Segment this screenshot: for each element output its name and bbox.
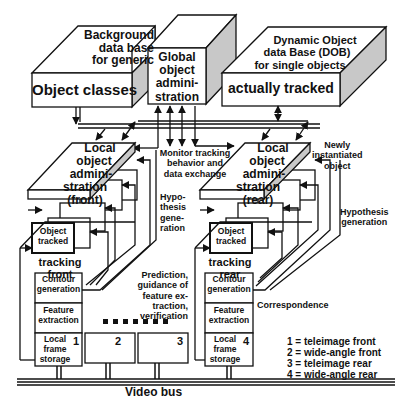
background-db-top-label: Background data base for generic <box>72 29 154 67</box>
camera-number-4: 4 <box>243 336 249 348</box>
label-line: object <box>55 155 127 168</box>
label-line: Background <box>72 29 154 42</box>
hypothesis-rear-label: Hypothesis generation <box>340 207 389 228</box>
label-line: (front) <box>43 194 127 207</box>
frame-box-2 <box>85 333 135 363</box>
legend-item: 3 = teleimage rear <box>287 358 381 369</box>
label-line: storage <box>205 355 245 365</box>
local-admin-front-label: Local object admini- stration (front) <box>55 142 127 207</box>
label-line: Hypo- <box>160 192 186 202</box>
label-line: admini- <box>148 77 206 90</box>
newly-instantiated-label: Newly instantiated object <box>312 140 363 171</box>
label-line: tracked <box>32 237 74 247</box>
label-line: Dynamic Object <box>240 34 360 46</box>
label-line: Hypothesis <box>340 207 389 217</box>
camera-number-3: 3 <box>177 336 183 348</box>
label-line: gene- <box>160 213 186 223</box>
object-tracked-rear: Object tracked <box>210 227 252 247</box>
prediction-label: Prediction, guidance of feature ex- trac… <box>130 270 188 322</box>
legend: 1 = teleimage front 2 = wide-angle front… <box>287 336 381 380</box>
label-line: admini- <box>228 168 300 181</box>
feature-front: Feature extraction <box>35 306 82 326</box>
label-line: stration <box>43 181 127 194</box>
label-line: verification <box>130 311 188 321</box>
frame-storage-front: Local frame storage <box>35 335 75 364</box>
label-line: ration <box>160 223 186 233</box>
label-line: generation <box>340 217 389 227</box>
contour-rear: Contour generation <box>205 275 253 295</box>
label-line: Local <box>55 142 127 155</box>
label-line: guidance of <box>130 280 188 290</box>
label-line: object <box>312 161 363 171</box>
actually-tracked-label: actually tracked <box>222 81 340 96</box>
label-line: generation <box>35 285 82 295</box>
global-admin-label: Global object admini- stration <box>148 51 206 104</box>
legend-item: 1 = teleimage front <box>287 336 381 347</box>
label-line: feature ex- <box>130 291 188 301</box>
camera-number-2: 2 <box>115 336 121 348</box>
object-classes-label: Object classes <box>32 82 132 98</box>
label-line: extraction <box>35 316 82 326</box>
object-tracked-front: Object tracked <box>32 227 74 247</box>
label-line: storage <box>35 355 75 365</box>
label-line: extraction <box>205 316 253 326</box>
feature-rear: Feature extraction <box>205 306 253 326</box>
contour-front: Contour generation <box>35 275 82 295</box>
local-admin-rear-label: Local object admini- stration (rear) <box>228 142 300 207</box>
video-bus-label: Video bus <box>125 386 182 399</box>
label-line: for generic <box>72 54 154 67</box>
label-line: stration <box>148 91 206 104</box>
label-line: (rear) <box>216 194 300 207</box>
legend-item: 2 = wide-angle front <box>287 347 381 358</box>
correspondence-label: Correspondence <box>257 300 329 310</box>
label-line: admini- <box>55 168 127 181</box>
label-line: data Base (DOB) <box>240 46 360 58</box>
frame-storage-rear: Local frame storage <box>205 335 245 364</box>
label-line: traction, <box>130 301 188 311</box>
label-line: thesis <box>160 202 186 212</box>
label-line: generation <box>205 285 253 295</box>
label-line: tracking <box>200 257 260 269</box>
camera-number-1: 1 <box>73 336 79 348</box>
dob-top-label: Dynamic Object data Base (DOB) for singl… <box>240 34 360 71</box>
label-line: tracking <box>30 257 90 269</box>
label-line: tracked <box>210 237 252 247</box>
label-line: Local <box>228 142 300 155</box>
hypothesis-front-label: Hypo- thesis gene- ration <box>160 192 186 233</box>
label-line: stration <box>216 181 300 194</box>
label-line: for single objects <box>240 59 360 71</box>
label-line: Prediction, <box>130 270 188 280</box>
label-line: instantiated <box>312 150 363 160</box>
label-line: Newly <box>312 140 363 150</box>
legend-item: 4 = wide-angle rear <box>287 369 381 380</box>
label-line: object <box>228 155 300 168</box>
